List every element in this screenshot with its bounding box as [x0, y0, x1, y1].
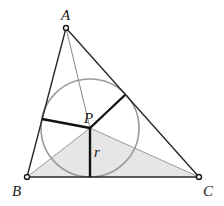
label-a: A — [60, 7, 71, 23]
incircle-diagram: A B C P r — [0, 0, 224, 206]
label-b: B — [12, 183, 21, 199]
radius-to-ab — [42, 119, 90, 128]
label-c: C — [203, 183, 214, 199]
radius-to-ac — [90, 95, 125, 128]
vertex-c-marker — [197, 175, 202, 180]
vertex-b-marker — [25, 175, 30, 180]
label-p: P — [83, 110, 93, 126]
vertex-a-marker — [64, 26, 69, 31]
label-r: r — [94, 144, 100, 160]
shaded-triangle-bpc — [27, 128, 199, 177]
